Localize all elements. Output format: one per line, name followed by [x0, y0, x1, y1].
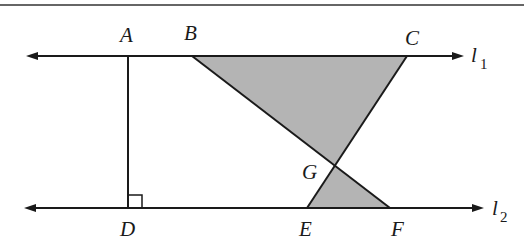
label-line-l2: l	[492, 196, 498, 220]
label-point-d: D	[119, 217, 135, 241]
arrow-right-l1-icon	[452, 52, 464, 60]
label-line-l1: l	[471, 43, 477, 67]
label-point-b: B	[184, 21, 197, 45]
label-point-c: C	[405, 26, 420, 50]
label-line-l2-subscript: 2	[500, 209, 508, 225]
label-point-g: G	[302, 160, 317, 184]
arrow-left-l1-icon	[26, 52, 38, 60]
arrow-right-l2-icon	[472, 204, 484, 212]
label-point-f: F	[390, 217, 404, 241]
geometry-diagram: A B C D E F G l 1 l 2	[0, 0, 524, 249]
arrow-left-l2-icon	[24, 204, 36, 212]
label-point-e: E	[298, 217, 312, 241]
label-line-l1-subscript: 1	[480, 56, 488, 72]
right-angle-marker-icon	[128, 195, 142, 208]
shaded-triangle-bcg	[192, 56, 407, 166]
label-point-a: A	[118, 23, 133, 47]
shaded-triangle-gef	[307, 166, 390, 208]
